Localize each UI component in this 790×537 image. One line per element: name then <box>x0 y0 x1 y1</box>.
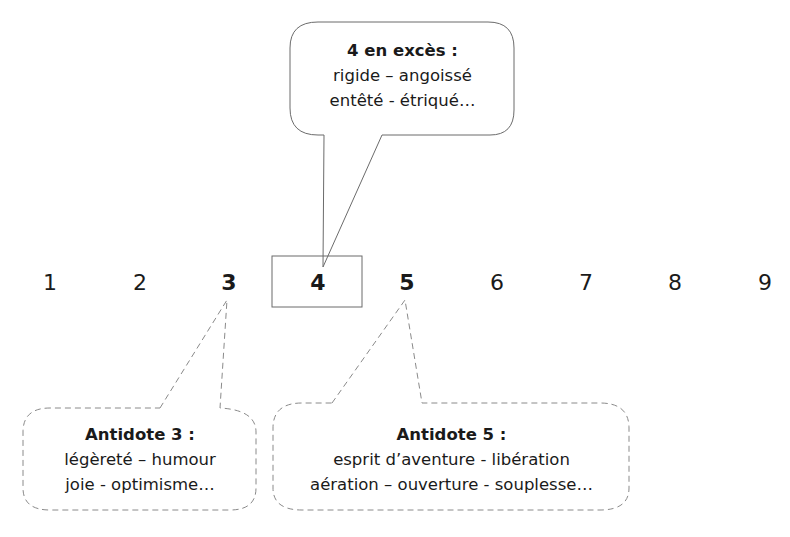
antidote3-line1: légèreté – humour <box>23 447 257 472</box>
antidote3-callout: Antidote 3 : légèreté – humour joie - op… <box>23 422 257 497</box>
antidote3-line2: joie - optimisme… <box>23 472 257 497</box>
antidote5-line2: aération – ouverture - souplesse… <box>273 472 630 497</box>
antidote3-title: Antidote 3 : <box>23 422 257 447</box>
scale-number-9: 9 <box>745 268 785 298</box>
excess-callout-line1: rigide – angoissé <box>290 63 515 88</box>
scale-number-1: 1 <box>30 268 70 298</box>
scale-number-3: 3 <box>209 268 249 298</box>
scale-number-6: 6 <box>477 268 517 298</box>
antidote5-line1: esprit d’aventure - libération <box>273 447 630 472</box>
scale-number-7: 7 <box>566 268 606 298</box>
scale-number-4: 4 <box>298 268 338 298</box>
scale-number-2: 2 <box>120 268 160 298</box>
scale-number-5: 5 <box>387 268 427 298</box>
excess-callout-line2: entêté - étriqué… <box>290 88 515 113</box>
excess-callout-title: 4 en excès : <box>290 38 515 63</box>
scale-number-8: 8 <box>655 268 695 298</box>
antidote5-callout: Antidote 5 : esprit d’aventure - libérat… <box>273 422 630 497</box>
antidote5-title: Antidote 5 : <box>273 422 630 447</box>
excess-callout: 4 en excès : rigide – angoissé entêté - … <box>290 38 515 113</box>
